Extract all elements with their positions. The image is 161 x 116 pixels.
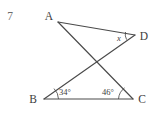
vertex-label-D: D (140, 30, 148, 42)
figure-page: A D B C x 34° 46° 7 (0, 0, 161, 116)
vertex-label-C: C (138, 93, 146, 105)
problem-number: 7 (7, 10, 13, 22)
angle-label-34: 34° (59, 87, 71, 97)
angle-label-46: 46° (102, 87, 114, 97)
segment-DB (44, 35, 135, 99)
geometry-figure: A D B C x 34° 46° 7 (0, 0, 161, 116)
vertex-label-B: B (29, 93, 37, 105)
angle-label-x: x (116, 33, 121, 43)
vertex-label-A: A (45, 10, 54, 22)
